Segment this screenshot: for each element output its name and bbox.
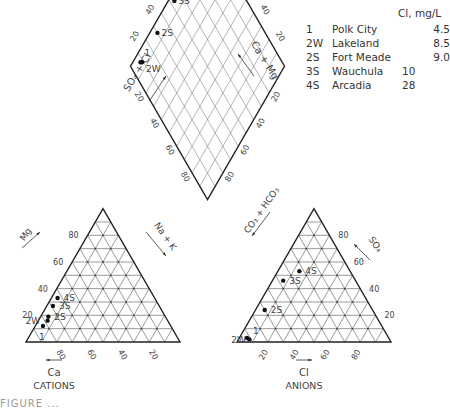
legend-name: Wauchula: [332, 64, 383, 78]
legend-value: 28: [402, 78, 442, 92]
svg-text:60: 60: [53, 258, 63, 267]
svg-text:40: 40: [144, 3, 157, 16]
figure-caption: FIGURE ...: [0, 398, 60, 409]
svg-text:60: 60: [85, 348, 98, 361]
axis-labels: CaCATIONSMgNa + KClANIONSSO₄CO₃ + HCO₃SO…: [18, 39, 385, 391]
svg-text:ANIONS: ANIONS: [285, 380, 322, 391]
svg-text:Na + K: Na + K: [152, 221, 179, 253]
legend-value: 10: [402, 64, 442, 78]
svg-text:4S: 4S: [64, 293, 76, 303]
sample-point: [55, 296, 59, 300]
svg-text:2W: 2W: [231, 335, 246, 345]
svg-text:80: 80: [69, 231, 79, 240]
svg-text:3S: 3S: [289, 276, 301, 286]
legend-id: 2S: [306, 50, 319, 64]
svg-text:60: 60: [163, 143, 176, 156]
legend-value: 9.0: [410, 50, 450, 64]
sample-points: 1112W2W2W2S2S2S3S3S3S4S4S4S: [26, 0, 318, 345]
svg-text:2S: 2S: [161, 28, 173, 38]
legend-name: Lakeland: [332, 36, 379, 50]
svg-text:20: 20: [128, 30, 141, 43]
svg-text:80: 80: [338, 231, 348, 240]
svg-text:2S: 2S: [271, 305, 283, 315]
svg-text:SO₄: SO₄: [367, 235, 385, 254]
legend-id: 2W: [306, 36, 323, 50]
svg-text:CATIONS: CATIONS: [33, 380, 75, 391]
svg-text:20: 20: [274, 30, 287, 43]
svg-text:40: 40: [254, 117, 267, 130]
svg-text:CO₃ + HCO₃: CO₃ + HCO₃: [242, 185, 281, 235]
svg-text:40: 40: [288, 348, 301, 361]
svg-text:80: 80: [350, 348, 363, 361]
legend-header: Cl, mg/L: [398, 6, 441, 20]
legend-value: 4.5: [410, 22, 450, 36]
legend-id: 3S: [306, 64, 319, 78]
legend-value: 8.5: [410, 36, 450, 50]
legend-name: Arcadia: [332, 78, 372, 92]
sample-point: [46, 314, 50, 318]
sample-point: [263, 308, 267, 312]
svg-text:20: 20: [147, 348, 160, 361]
svg-text:1: 1: [39, 332, 45, 342]
legend-name: Fort Meade: [332, 50, 391, 64]
svg-text:1: 1: [145, 48, 151, 58]
svg-text:40: 40: [258, 3, 271, 16]
svg-text:3S: 3S: [178, 0, 190, 6]
svg-text:20: 20: [385, 311, 395, 320]
sample-point: [140, 60, 144, 64]
svg-text:80: 80: [55, 348, 68, 361]
svg-text:20: 20: [133, 90, 146, 103]
sample-point: [281, 278, 285, 282]
svg-text:60: 60: [319, 348, 332, 361]
svg-text:60: 60: [354, 258, 364, 267]
svg-text:2W: 2W: [26, 316, 41, 326]
legend-id: 1: [306, 22, 313, 36]
sample-point: [297, 269, 301, 273]
svg-text:Cl: Cl: [299, 367, 309, 378]
sample-point: [172, 0, 176, 3]
svg-text:2S: 2S: [54, 312, 66, 322]
svg-text:60: 60: [239, 143, 252, 156]
svg-text:Ca + Mg: Ca + Mg: [249, 39, 281, 81]
sample-point: [41, 324, 45, 328]
grid-layer: [34, 0, 384, 342]
svg-text:40: 40: [38, 285, 48, 294]
svg-text:40: 40: [369, 285, 379, 294]
svg-text:1: 1: [253, 326, 259, 336]
legend-name: Polk City: [332, 22, 377, 36]
svg-text:20: 20: [257, 348, 270, 361]
legend-id: 4S: [306, 78, 319, 92]
sample-point: [155, 31, 159, 35]
svg-text:40: 40: [148, 117, 161, 130]
svg-text:40: 40: [116, 348, 129, 361]
svg-text:2W: 2W: [146, 64, 161, 74]
sample-point: [247, 337, 251, 341]
svg-text:80: 80: [179, 170, 192, 183]
svg-text:80: 80: [223, 170, 236, 183]
sample-point: [45, 318, 49, 322]
svg-text:4S: 4S: [305, 266, 317, 276]
svg-text:Ca: Ca: [47, 367, 60, 378]
svg-text:20: 20: [269, 90, 282, 103]
sample-point: [51, 304, 55, 308]
